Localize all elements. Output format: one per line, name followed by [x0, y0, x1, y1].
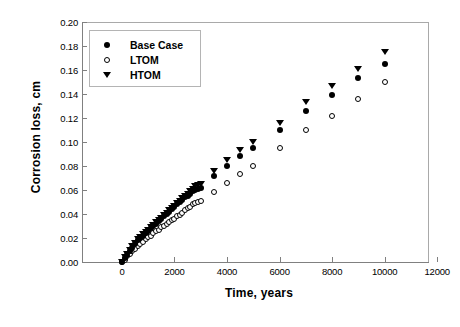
y-tick	[82, 190, 87, 191]
data-point	[223, 157, 231, 163]
y-tick-label: 0.14	[60, 89, 78, 100]
y-tick	[82, 262, 87, 263]
marker-open-circle-icon	[250, 163, 256, 169]
x-tick-label: 8000	[322, 266, 342, 277]
data-point	[303, 127, 309, 133]
data-point	[236, 147, 244, 153]
x-tick-label: 4000	[217, 266, 237, 277]
x-tick	[174, 257, 175, 262]
y-tick-label: 0.00	[60, 257, 78, 268]
x-axis-title: Time, years	[0, 286, 460, 300]
x-tick-label: 2000	[164, 266, 184, 277]
marker-triangle-down-icon	[249, 139, 257, 145]
marker-filled-circle-icon	[277, 127, 283, 133]
marker-triangle-down-icon	[276, 120, 284, 126]
chart-legend: Base CaseLTOMHTOM	[89, 30, 201, 87]
data-point	[224, 180, 230, 186]
marker-filled-circle-icon	[382, 61, 388, 67]
data-point	[382, 61, 388, 67]
y-tick	[82, 118, 87, 119]
data-point	[277, 127, 283, 133]
marker-triangle-down-icon	[354, 66, 362, 72]
legend-marker	[104, 42, 110, 48]
marker-triangle-down-icon	[210, 168, 218, 174]
y-tick-label: 0.20	[60, 17, 78, 28]
y-tick-label: 0.04	[60, 209, 78, 220]
data-point	[210, 168, 218, 174]
data-point	[224, 163, 230, 169]
y-tick	[82, 214, 87, 215]
marker-triangle-down-icon	[197, 181, 205, 187]
marker-filled-circle-icon	[329, 92, 335, 98]
data-point	[250, 163, 256, 169]
x-tick	[332, 257, 333, 262]
marker-open-circle-icon	[198, 198, 204, 204]
marker-open-circle-icon	[224, 180, 230, 186]
y-tick	[82, 70, 87, 71]
y-tick-label: 0.02	[60, 233, 78, 244]
data-point	[329, 113, 335, 119]
marker-triangle-down-icon	[381, 49, 389, 55]
y-tick	[82, 142, 87, 143]
data-point	[354, 66, 362, 72]
data-point	[277, 145, 283, 151]
marker-triangle-down-icon	[223, 157, 231, 163]
data-point	[328, 83, 336, 89]
y-tick-label: 0.18	[60, 41, 78, 52]
data-point	[276, 120, 284, 126]
marker-open-circle-icon	[382, 79, 388, 85]
data-point	[197, 181, 205, 187]
y-tick	[82, 46, 87, 47]
legend-label: Base Case	[130, 39, 183, 51]
data-point	[237, 153, 243, 159]
chart-figure: Corrosion loss, cm 0.000.020.040.060.080…	[0, 0, 460, 327]
x-axis-line	[82, 262, 429, 263]
legend-label: LTOM	[130, 54, 159, 66]
legend-item: LTOM	[90, 52, 202, 67]
marker-triangle-down-icon	[328, 83, 336, 89]
data-point	[249, 139, 257, 145]
data-point	[329, 92, 335, 98]
marker-open-circle-icon	[104, 57, 110, 63]
marker-triangle-down-icon	[302, 99, 310, 105]
legend-marker	[103, 72, 111, 78]
data-point	[381, 49, 389, 55]
marker-open-circle-icon	[303, 127, 309, 133]
x-tick	[437, 257, 438, 262]
marker-open-circle-icon	[237, 171, 243, 177]
marker-filled-circle-icon	[303, 108, 309, 114]
data-point	[237, 171, 243, 177]
plot-border-right	[428, 22, 429, 263]
data-point	[355, 96, 361, 102]
marker-filled-circle-icon	[250, 145, 256, 151]
data-point	[198, 198, 204, 204]
y-tick	[82, 166, 87, 167]
y-axis-tick-labels: 0.000.020.040.060.080.100.120.140.160.18…	[0, 0, 78, 327]
y-tick-label: 0.08	[60, 161, 78, 172]
x-tick-label: 6000	[269, 266, 289, 277]
marker-filled-circle-icon	[237, 153, 243, 159]
y-tick	[82, 94, 87, 95]
y-tick-label: 0.12	[60, 113, 78, 124]
data-point	[302, 99, 310, 105]
marker-open-circle-icon	[329, 113, 335, 119]
data-point	[250, 145, 256, 151]
legend-marker	[104, 57, 110, 63]
data-point	[382, 79, 388, 85]
x-tick	[385, 257, 386, 262]
marker-filled-circle-icon	[104, 42, 110, 48]
y-tick-label: 0.06	[60, 185, 78, 196]
data-point	[303, 108, 309, 114]
x-tick-label: 10000	[372, 266, 397, 277]
legend-item: Base Case	[90, 37, 202, 52]
x-tick	[280, 257, 281, 262]
marker-open-circle-icon	[355, 96, 361, 102]
marker-filled-circle-icon	[355, 75, 361, 81]
marker-filled-circle-icon	[224, 163, 230, 169]
x-tick-label: 12000	[424, 266, 449, 277]
x-axis-title-text: Time, years	[225, 286, 293, 300]
marker-triangle-down-icon	[103, 72, 111, 78]
data-point	[211, 189, 217, 195]
legend-label: HTOM	[130, 69, 161, 81]
x-tick	[227, 257, 228, 262]
